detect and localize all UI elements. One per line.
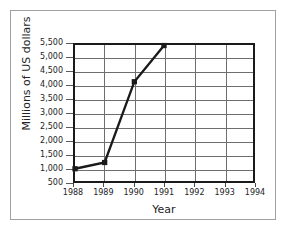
data-point-marker bbox=[102, 160, 107, 165]
y-axis-tick-label: 500 bbox=[27, 179, 63, 187]
y-axis-tick-label: 3,500 bbox=[27, 95, 63, 103]
y-axis-tick-label: 5,500 bbox=[27, 39, 63, 47]
x-axis-tick-mark bbox=[73, 183, 74, 187]
y-axis-tick-label: 1,500 bbox=[27, 151, 63, 159]
y-axis-tick-mark bbox=[66, 155, 73, 156]
data-point-marker bbox=[72, 166, 77, 171]
y-axis-tick-label: 5,000 bbox=[27, 53, 63, 61]
plot-inner bbox=[75, 45, 253, 181]
x-axis-tick-mark bbox=[103, 183, 104, 187]
plot-area bbox=[73, 43, 255, 183]
y-axis-tick-mark bbox=[66, 71, 73, 72]
y-axis-tick-mark bbox=[66, 169, 73, 170]
x-axis-title: Year bbox=[73, 203, 255, 216]
x-axis-tick-mark bbox=[134, 183, 135, 187]
y-axis-tick-mark bbox=[66, 43, 73, 44]
y-axis-tick-label: 4,000 bbox=[27, 81, 63, 89]
y-axis-tick-mark bbox=[66, 141, 73, 142]
data-point-marker bbox=[161, 43, 166, 48]
y-axis-tick-label: 2,500 bbox=[27, 123, 63, 131]
y-axis-tick-label: 2,000 bbox=[27, 137, 63, 145]
x-axis-tick-mark bbox=[225, 183, 226, 187]
x-axis-tick-label: 1994 bbox=[235, 188, 275, 197]
y-axis-tick-mark bbox=[66, 99, 73, 100]
y-axis-tick-mark bbox=[66, 127, 73, 128]
x-axis-tick-mark bbox=[255, 183, 256, 187]
series-line bbox=[75, 46, 164, 169]
y-axis-tick-mark bbox=[66, 183, 73, 184]
data-series bbox=[75, 45, 253, 181]
x-axis-tick-mark bbox=[164, 183, 165, 187]
y-axis-tick-label: 4,500 bbox=[27, 67, 63, 75]
y-axis-tick-label: 1,000 bbox=[27, 165, 63, 173]
y-axis-tick-label: 3,000 bbox=[27, 109, 63, 117]
x-axis-tick-mark bbox=[194, 183, 195, 187]
y-axis-tick-mark bbox=[66, 57, 73, 58]
chart-page: Millions of US dollars 5001,0001,5002,00… bbox=[0, 0, 286, 231]
y-axis-tick-mark bbox=[66, 113, 73, 114]
y-axis-tick-mark bbox=[66, 85, 73, 86]
data-point-marker bbox=[132, 79, 137, 84]
line-chart-figure: Millions of US dollars 5001,0001,5002,00… bbox=[0, 0, 286, 231]
